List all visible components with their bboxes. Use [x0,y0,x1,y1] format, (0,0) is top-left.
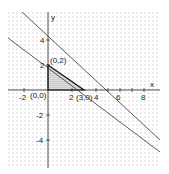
y-tick-label: 2 [40,61,45,70]
y-tick-label: 4 [40,36,45,45]
graph-figure: x y -2 2 4 6 8 4 2 -2 -4 (0,0) (0,2) (3,… [0,0,169,174]
coordinate-plane: x y -2 2 4 6 8 4 2 -2 -4 (0,0) (0,2) (3,… [0,0,169,174]
y-tick-label: -4 [36,136,44,145]
x-axis-label: x [150,80,154,89]
point-label-0-2: (0,2) [50,56,67,65]
point-label-3-0: (3,0) [76,93,93,102]
shaded-background [8,10,160,168]
x-tick-label: 2 [69,93,74,102]
x-tick-label: 6 [116,93,121,102]
x-tick-label: -2 [19,93,27,102]
x-tick-label: 4 [94,93,99,102]
y-tick-label: -2 [36,111,44,120]
point-label-origin: (0,0) [30,91,47,100]
y-axis-label: y [51,13,55,22]
x-tick-label: 8 [141,93,146,102]
